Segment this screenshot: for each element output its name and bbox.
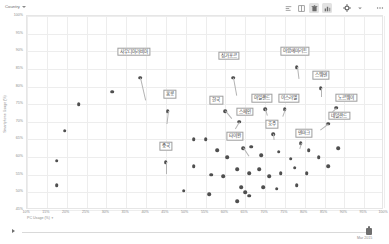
- scatter-point[interactable]: [235, 168, 239, 172]
- scatter-point[interactable]: [261, 185, 265, 189]
- more-icon[interactable]: [375, 3, 385, 13]
- grid-line-vertical: [305, 16, 306, 208]
- scatter-point[interactable]: [267, 175, 271, 179]
- data-point-label[interactable]: 한국: [210, 96, 223, 105]
- scatter-point[interactable]: [192, 138, 196, 142]
- data-point-label[interactable]: 중국: [159, 142, 172, 151]
- scatter-point[interactable]: [216, 148, 220, 152]
- y-axis-tick-label: 100%: [14, 13, 23, 17]
- chart-icon[interactable]: [322, 3, 332, 13]
- align-left-icon[interactable]: [283, 3, 293, 13]
- chevron-down-icon-toolbar[interactable]: [355, 3, 365, 13]
- scatter-point[interactable]: [305, 171, 309, 175]
- x-axis-tick-label: 60%: [221, 210, 228, 214]
- timeline-track[interactable]: [22, 232, 370, 233]
- grid-icon[interactable]: [296, 3, 306, 13]
- scatter-point[interactable]: [279, 171, 283, 175]
- data-point-label[interactable]: 스웨덴: [312, 71, 329, 80]
- x-axis-tick-label: 65%: [241, 210, 248, 214]
- scatter-point[interactable]: [247, 194, 251, 198]
- scatter-point[interactable]: [275, 187, 279, 191]
- scatter-point[interactable]: [295, 184, 299, 188]
- scatter-point[interactable]: [77, 102, 81, 106]
- play-icon[interactable]: [12, 229, 15, 233]
- x-axis-title-text: PC Usage (%): [27, 216, 50, 220]
- data-point-label[interactable]: 스페인: [237, 108, 254, 117]
- timeline-footer: Mar 2015: [0, 224, 389, 244]
- scatter-plot-area[interactable]: 사우디아라비아홍콩중국싱가포르한국스페인타이완아일랜드이스라엘아랍에미리트스웨덴…: [26, 15, 383, 209]
- grid-line-vertical: [325, 16, 326, 208]
- x-axis-tick-label: 70%: [260, 210, 267, 214]
- scatter-point[interactable]: [257, 168, 261, 172]
- country-filter-dropdown[interactable]: Country: [5, 4, 26, 9]
- scatter-point[interactable]: [247, 171, 251, 175]
- chevron-down-icon: [22, 6, 26, 8]
- scatter-point[interactable]: [293, 166, 297, 170]
- timeline-date-label: Mar 2015: [357, 236, 372, 240]
- y-axis-tick-label: 80%: [16, 84, 23, 88]
- y-axis-tick-label: 85%: [16, 66, 23, 70]
- scatter-point[interactable]: [327, 164, 331, 168]
- scatter-point[interactable]: [239, 185, 243, 189]
- x-axis-tick-label: 20%: [62, 210, 69, 214]
- scatter-point[interactable]: [259, 154, 263, 158]
- scatter-point[interactable]: [192, 164, 196, 168]
- data-point-label[interactable]: 타이완: [227, 132, 244, 141]
- scatter-point[interactable]: [55, 184, 59, 188]
- data-point-label[interactable]: 사우디아라비아: [117, 47, 150, 56]
- y-axis-tick-label: 55%: [16, 172, 23, 176]
- scatter-point[interactable]: [208, 192, 212, 196]
- grid-line-vertical: [285, 16, 286, 208]
- scatter-point[interactable]: [289, 157, 293, 161]
- toolbar: Country: [0, 0, 389, 16]
- scatter-point[interactable]: [243, 191, 247, 195]
- y-axis-tick-label: 50%: [16, 189, 23, 193]
- data-point-label[interactable]: 이스라엘: [278, 94, 299, 103]
- data-point-label[interactable]: 네덜란드: [329, 111, 350, 120]
- scatter-point[interactable]: [204, 138, 208, 142]
- grid-line-vertical: [106, 16, 107, 208]
- x-axis-tick-label: 55%: [201, 210, 208, 214]
- x-axis-tick-label: 10%: [22, 210, 29, 214]
- scatter-point[interactable]: [317, 155, 321, 159]
- x-axis-tick-label: 35%: [122, 210, 129, 214]
- label-leader-line: [243, 148, 249, 157]
- data-point-label[interactable]: 아랍에미리트: [280, 47, 309, 56]
- x-axis-tick-label: 75%: [280, 210, 287, 214]
- grid-line-vertical: [186, 16, 187, 208]
- scatter-point[interactable]: [110, 90, 114, 94]
- data-point-label[interactable]: 싱가포르: [219, 51, 240, 60]
- y-axis-tick-label: 95%: [16, 31, 23, 35]
- gear-icon[interactable]: [342, 3, 352, 13]
- scatter-point[interactable]: [222, 175, 226, 179]
- scatter-point[interactable]: [226, 155, 230, 159]
- label-leader-line: [235, 122, 239, 129]
- x-axis-sort-icon[interactable]: ▾: [51, 216, 53, 220]
- data-point-label[interactable]: 아일랜드: [251, 94, 272, 103]
- scatter-point[interactable]: [277, 150, 281, 154]
- scatter-point[interactable]: [235, 199, 239, 203]
- grid-line-vertical: [126, 16, 127, 208]
- trash-icon[interactable]: [309, 3, 319, 13]
- x-axis-tick-label: 50%: [181, 210, 188, 214]
- x-axis-tick-label: 100%: [378, 210, 387, 214]
- data-point-label[interactable]: 홍콩: [163, 90, 176, 99]
- x-axis-tick-label: 15%: [42, 210, 49, 214]
- scatter-point[interactable]: [337, 146, 341, 150]
- scatter-point[interactable]: [55, 159, 59, 163]
- timeline-handle-icon[interactable]: [366, 228, 372, 235]
- y-axis-title: Smartphone Usage (%): [3, 92, 7, 136]
- data-point-label[interactable]: 노르웨이: [336, 93, 357, 102]
- scatter-point[interactable]: [63, 129, 67, 133]
- x-axis-tick-label: 85%: [320, 210, 327, 214]
- data-point-label[interactable]: 덴마크: [295, 129, 312, 138]
- x-axis-tick-label: 40%: [141, 210, 148, 214]
- scatter-point[interactable]: [249, 145, 253, 149]
- y-axis-tick-label: 60%: [16, 154, 23, 158]
- scatter-point[interactable]: [182, 189, 186, 193]
- scatter-point[interactable]: [210, 173, 214, 177]
- x-axis-tick-label: 25%: [82, 210, 89, 214]
- x-axis-tick-label: 95%: [360, 210, 367, 214]
- scatter-point[interactable]: [307, 148, 311, 152]
- data-point-label[interactable]: 호주: [265, 120, 278, 129]
